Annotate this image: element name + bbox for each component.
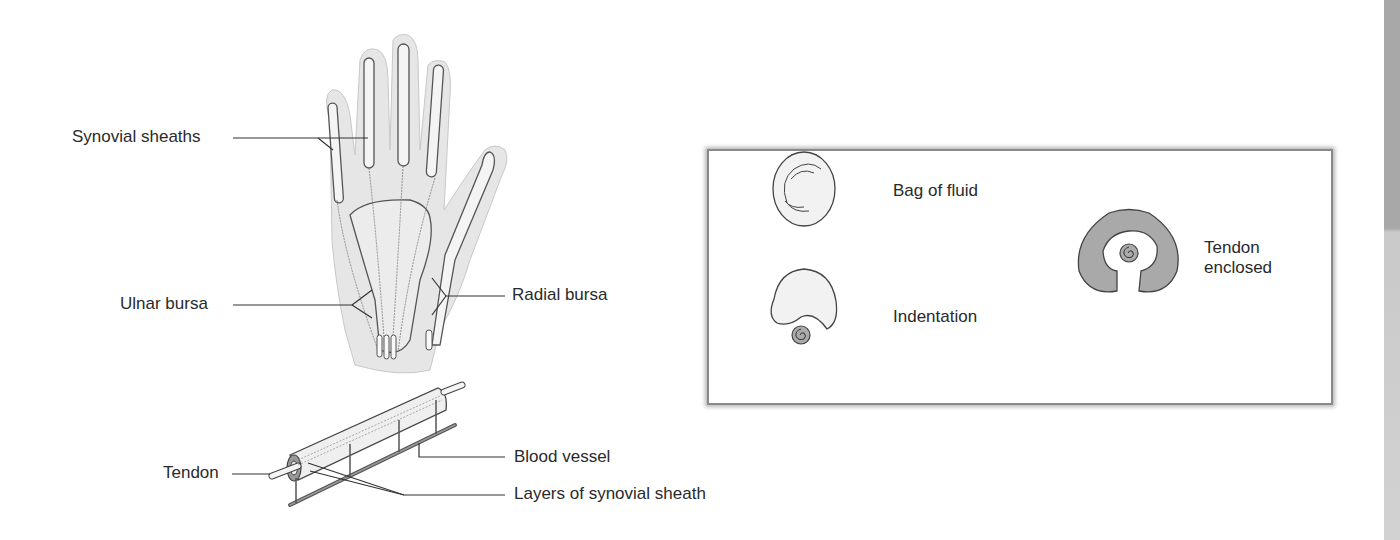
label-ulnar-bursa: Ulnar bursa xyxy=(120,294,208,314)
label-tendon: Tendon xyxy=(163,463,219,483)
label-bag-of-fluid: Bag of fluid xyxy=(893,181,978,201)
sheath-formation-panel: Bag of fluid Indentation Tendon enclosed xyxy=(707,149,1333,405)
tendon-sheath-illustration xyxy=(232,385,505,505)
label-tendon-enclosed-2: enclosed xyxy=(1204,258,1272,278)
tendon-enclosed-icon xyxy=(1078,210,1178,292)
label-synovial-sheaths: Synovial sheaths xyxy=(72,127,201,147)
label-indentation: Indentation xyxy=(893,307,977,327)
page-edge-strip xyxy=(1384,0,1400,540)
label-layers-synovial-sheath: Layers of synovial sheath xyxy=(514,484,706,504)
label-tendon-enclosed-1: Tendon xyxy=(1204,238,1260,258)
label-blood-vessel: Blood vessel xyxy=(514,447,610,467)
bag-of-fluid-icon xyxy=(773,152,835,226)
label-radial-bursa: Radial bursa xyxy=(512,285,607,305)
indentation-icon xyxy=(771,269,836,344)
